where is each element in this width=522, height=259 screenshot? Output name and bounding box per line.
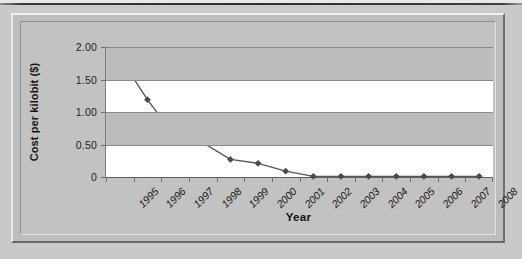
y-tick-label: 0.50 xyxy=(76,139,97,151)
y-tick-label: 0 xyxy=(91,171,97,183)
x-tick-label: 2008 xyxy=(495,185,520,210)
page-edge-rule xyxy=(0,3,522,5)
x-tick-mark xyxy=(244,177,245,182)
data-point-marker xyxy=(282,168,289,175)
x-tick-mark xyxy=(300,177,301,182)
gridline xyxy=(106,47,493,48)
gridline xyxy=(106,145,493,146)
plot-area: 2.001.501.000.50019951996199719981999200… xyxy=(105,47,493,178)
plot-band xyxy=(106,112,493,145)
gridline xyxy=(106,80,493,81)
x-tick-mark xyxy=(189,177,190,182)
x-tick-mark xyxy=(106,177,107,182)
x-tick-mark xyxy=(161,177,162,182)
x-axis-title: Year xyxy=(105,211,492,223)
x-tick-mark xyxy=(492,177,493,182)
x-tick-mark xyxy=(355,177,356,182)
data-point-marker xyxy=(227,156,234,163)
x-tick-mark xyxy=(217,177,218,182)
y-tick-label: 2.00 xyxy=(76,41,97,53)
y-tick-mark xyxy=(101,145,106,146)
data-point-marker xyxy=(255,160,262,167)
gridline xyxy=(106,112,493,113)
y-tick-mark xyxy=(101,112,106,113)
x-tick-mark xyxy=(465,177,466,182)
y-tick-mark xyxy=(101,80,106,81)
y-tick-mark xyxy=(101,47,106,48)
chart-frame: Cost per kilobit ($) 2.001.501.000.50019… xyxy=(11,13,505,243)
y-axis-title-label: Cost per kilobit ($) xyxy=(28,63,40,162)
plot-band xyxy=(106,47,493,80)
x-tick-mark xyxy=(272,177,273,182)
y-axis-title: Cost per kilobit ($) xyxy=(26,47,42,177)
x-tick-mark xyxy=(327,177,328,182)
x-tick-mark xyxy=(134,177,135,182)
y-tick-label: 1.00 xyxy=(76,106,97,118)
x-tick-mark xyxy=(438,177,439,182)
x-tick-mark xyxy=(410,177,411,182)
y-tick-label: 1.50 xyxy=(76,74,97,86)
x-tick-mark xyxy=(382,177,383,182)
